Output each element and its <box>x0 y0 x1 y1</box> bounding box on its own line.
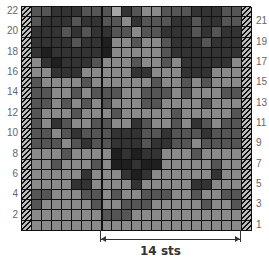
stitch-cell <box>122 99 132 109</box>
stitch-cell <box>142 7 152 17</box>
stitch-cell <box>222 48 232 58</box>
stitch-cell <box>42 17 52 27</box>
stitch-cell <box>172 149 182 159</box>
stitch-cell <box>72 190 82 200</box>
stitch-cell <box>122 109 132 119</box>
stitch-cell <box>52 139 62 149</box>
stitch-cell <box>82 170 92 180</box>
stitch-cell <box>172 160 182 170</box>
stitch-cell <box>202 27 212 37</box>
edge-stitch-cell <box>242 119 252 129</box>
stitch-cell <box>82 88 92 98</box>
edge-stitch-cell <box>242 210 252 220</box>
stitch-cell <box>82 7 92 17</box>
stitch-cell <box>142 78 152 88</box>
stitch-cell <box>72 78 82 88</box>
stitch-cell <box>122 88 132 98</box>
edge-stitch-cell <box>242 200 252 210</box>
stitch-cell <box>112 38 122 48</box>
stitch-cell <box>112 180 122 190</box>
edge-stitch-cell <box>22 160 32 170</box>
stitch-cell <box>132 221 142 231</box>
stitch-cell <box>112 109 122 119</box>
edge-stitch-cell <box>242 88 252 98</box>
stitch-cell <box>62 129 72 139</box>
stitch-cell <box>212 58 222 68</box>
stitch-cell <box>152 68 162 78</box>
edge-stitch-cell <box>22 139 32 149</box>
stitch-cell <box>152 129 162 139</box>
stitch-cell <box>132 38 142 48</box>
stitch-cell <box>32 170 42 180</box>
stitch-cell <box>162 109 172 119</box>
stitch-cell <box>152 99 162 109</box>
stitch-cell <box>62 78 72 88</box>
stitch-cell <box>162 149 172 159</box>
stitch-cell <box>172 119 182 129</box>
edge-stitch-cell <box>22 68 32 78</box>
stitch-cell <box>152 38 162 48</box>
stitch-cell <box>52 119 62 129</box>
stitch-cell <box>52 129 62 139</box>
stitch-cell <box>182 48 192 58</box>
stitch-cell <box>172 109 182 119</box>
stitch-cell <box>62 200 72 210</box>
stitch-cell <box>202 190 212 200</box>
stitch-cell <box>72 58 82 68</box>
stitch-cell <box>32 139 42 149</box>
stitch-cell <box>182 149 192 159</box>
edge-stitch-cell <box>22 48 32 58</box>
edge-stitch-cell <box>242 38 252 48</box>
stitch-cell <box>62 119 72 129</box>
row-number: 11 <box>256 117 269 128</box>
edge-stitch-cell <box>22 149 32 159</box>
edge-stitch-cell <box>242 180 252 190</box>
stitch-cell <box>62 27 72 37</box>
stitch-cell <box>172 129 182 139</box>
stitch-cell <box>162 38 172 48</box>
stitch-cell <box>152 88 162 98</box>
stitch-cell <box>192 78 202 88</box>
row-number: 19 <box>256 36 269 47</box>
stitch-cell <box>222 109 232 119</box>
stitch-cell <box>212 200 222 210</box>
stitch-cell <box>72 38 82 48</box>
stitch-cell <box>72 68 82 78</box>
row-number: 6 <box>2 168 18 179</box>
stitch-cell <box>32 88 42 98</box>
repeat-right-tick <box>240 230 241 242</box>
edge-stitch-cell <box>242 58 252 68</box>
stitch-cell <box>132 180 142 190</box>
stitch-cell <box>82 27 92 37</box>
stitch-cell <box>232 200 242 210</box>
stitch-cell <box>142 210 152 220</box>
stitch-cell <box>32 129 42 139</box>
stitch-cell <box>172 58 182 68</box>
stitch-cell <box>202 78 212 88</box>
stitch-cell <box>152 48 162 58</box>
stitch-cell <box>122 170 132 180</box>
stitch-cell <box>52 221 62 231</box>
stitch-cell <box>162 160 172 170</box>
stitch-cell <box>212 38 222 48</box>
stitch-cell <box>72 7 82 17</box>
stitch-cell <box>132 17 142 27</box>
row-number: 9 <box>256 137 269 148</box>
stitch-cell <box>132 88 142 98</box>
stitch-cell <box>122 78 132 88</box>
stitch-cell <box>202 221 212 231</box>
stitch-cell <box>202 210 212 220</box>
stitch-cell <box>112 99 122 109</box>
stitch-cell <box>142 139 152 149</box>
stitch-cell <box>202 119 212 129</box>
stitch-cell <box>82 78 92 88</box>
stitch-cell <box>62 99 72 109</box>
stitch-cell <box>32 78 42 88</box>
stitch-cell <box>32 180 42 190</box>
stitch-cell <box>142 200 152 210</box>
stitch-cell <box>82 139 92 149</box>
stitch-cell <box>202 200 212 210</box>
stitch-cell <box>142 221 152 231</box>
row-number: 3 <box>256 198 269 209</box>
stitch-cell <box>152 190 162 200</box>
